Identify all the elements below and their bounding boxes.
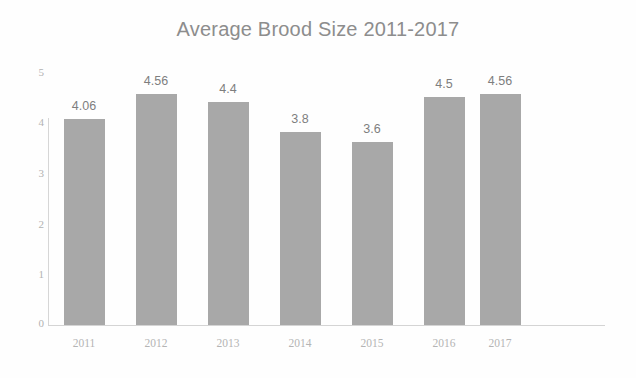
bar-rect-2011[interactable] [64, 119, 105, 325]
bar-value-label-2014: 3.8 [264, 112, 336, 126]
x-tick-label-2014: 2014 [264, 337, 336, 349]
x-tick-label-2013: 2013 [192, 337, 264, 349]
bar-value-label-2012: 4.56 [120, 74, 192, 88]
bar-group-2017[interactable]: 4.56 2017 [464, 0, 536, 378]
bar-rect-2017[interactable] [480, 94, 521, 325]
bar-group-2012[interactable]: 4.56 2012 [120, 0, 192, 378]
bar-group-2011[interactable]: 4.06 2011 [48, 0, 120, 378]
x-tick-label-2017: 2017 [464, 337, 536, 349]
x-tick-label-2015: 2015 [336, 337, 408, 349]
bar-value-label-2013: 4.4 [192, 82, 264, 96]
x-tick-label-2012: 2012 [120, 337, 192, 349]
x-tick-label-2011: 2011 [48, 337, 120, 349]
bar-value-label-2011: 4.06 [48, 99, 120, 113]
bar-group-2013[interactable]: 4.4 2013 [192, 0, 264, 378]
bar-value-label-2017: 4.56 [464, 74, 536, 88]
bar-rect-2015[interactable] [352, 142, 393, 325]
bar-rect-2016[interactable] [424, 97, 465, 325]
bar-rect-2014[interactable] [280, 132, 321, 325]
bar-chart: Average Brood Size 2011-2017 5 4 3 2 1 0… [0, 0, 636, 378]
bar-group-2014[interactable]: 3.8 2014 [264, 0, 336, 378]
bar-group-2015[interactable]: 3.6 2015 [336, 0, 408, 378]
bar-rect-2013[interactable] [208, 102, 249, 325]
bar-rect-2012[interactable] [136, 94, 177, 325]
bars-layer: 4.06 2011 4.56 2012 4.4 2013 3.8 2014 3.… [0, 0, 636, 378]
bar-value-label-2015: 3.6 [336, 122, 408, 136]
